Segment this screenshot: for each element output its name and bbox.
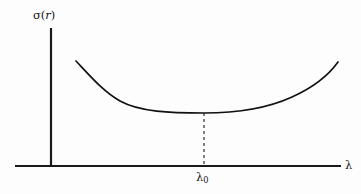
y-axis-label: σ(r)	[33, 10, 55, 22]
y-axis-label-close-paren: )	[51, 8, 56, 22]
plot-figure: σ(r) λ λ0	[0, 0, 361, 194]
sigma-curve	[76, 61, 338, 113]
x-axis-label: λ	[345, 160, 352, 172]
y-axis-label-sigma: σ	[33, 8, 41, 22]
lambda0-tick-label: λ0	[196, 172, 209, 185]
lambda0-subscript: 0	[203, 175, 208, 185]
plot-canvas	[0, 0, 361, 194]
